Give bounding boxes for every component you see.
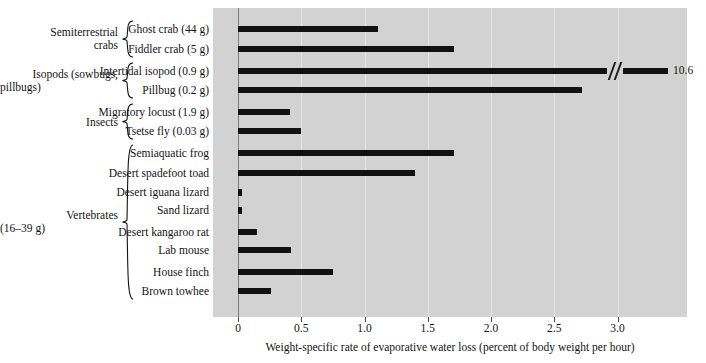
group-label-3: Vertebrates(16–39 g) xyxy=(0,209,118,235)
plot-area: 10.6 xyxy=(213,8,687,317)
chart-figure: 10.6 Ghost crab (44 g)Fiddler crab (5 g)… xyxy=(0,0,706,363)
category-labels: Ghost crab (44 g)Fiddler crab (5 g)Inter… xyxy=(0,0,209,363)
group-label-line1: Vertebrates xyxy=(0,209,118,222)
bar-13 xyxy=(238,288,271,294)
x-axis-ticks: 00.51.01.52.02.53.0 xyxy=(213,317,687,325)
group-brace-3 xyxy=(122,144,134,300)
tick-label-4: 2.0 xyxy=(484,322,498,334)
group-brace-2 xyxy=(122,103,134,140)
group-brace-1 xyxy=(122,62,134,99)
bar-8 xyxy=(238,189,242,196)
group-brace-0 xyxy=(122,20,134,58)
tick-label-2: 1.0 xyxy=(357,322,371,334)
group-label-line2: (16–39 g) xyxy=(0,222,118,235)
tick-label-5: 2.5 xyxy=(547,322,561,334)
x-axis-title: Weight-specific rate of evaporative wate… xyxy=(213,341,687,353)
gridline-2-5 xyxy=(554,8,555,317)
bar-6 xyxy=(238,150,454,156)
category-label-6: Semiaquatic frog xyxy=(130,147,209,159)
gridline-2 xyxy=(491,8,492,317)
tick-label-0: 0 xyxy=(235,322,241,334)
gridline-3 xyxy=(618,8,619,317)
category-label-1: Fiddler crab (5 g) xyxy=(128,43,209,55)
gridline-1-5 xyxy=(428,8,429,317)
category-label-12: House finch xyxy=(153,266,209,278)
group-label-line2: crabs xyxy=(0,39,118,52)
gridline-1 xyxy=(365,8,366,317)
category-label-5: Tsetse fly (0.03 g) xyxy=(125,125,209,137)
tick-label-1: 0.5 xyxy=(294,322,308,334)
category-label-11: Lab mouse xyxy=(158,244,209,256)
bar-5 xyxy=(238,128,301,134)
category-label-13: Brown towhee xyxy=(142,285,209,297)
tick-label-6: 3.0 xyxy=(610,322,624,334)
bar-9 xyxy=(238,207,242,214)
bar-12 xyxy=(238,269,333,275)
category-label-0: Ghost crab (44 g) xyxy=(128,23,209,35)
category-label-9: Sand lizard xyxy=(157,204,209,216)
group-label-1: Isopods (sowbugs,pillbugs) xyxy=(0,68,118,94)
bar-value-label: 10.6 xyxy=(673,64,693,76)
category-label-3: Pillbug (0.2 g) xyxy=(142,84,209,96)
tick-label-3: 1.5 xyxy=(421,322,435,334)
bar-0 xyxy=(238,26,378,32)
group-label-line2: pillbugs) xyxy=(0,81,118,94)
group-label-line1: Semiterrestrial xyxy=(0,26,118,39)
bar-4 xyxy=(238,109,290,115)
group-label-2: Insects xyxy=(0,116,118,129)
bar-1 xyxy=(238,46,454,52)
bar-2 xyxy=(238,68,668,74)
bar-3 xyxy=(238,87,582,93)
bar-10 xyxy=(238,229,257,235)
bar-11 xyxy=(238,247,291,253)
axis-break-icon xyxy=(607,62,623,80)
group-label-line1: Insects xyxy=(0,116,118,129)
group-label-0: Semiterrestrialcrabs xyxy=(0,26,118,52)
group-label-line1: Isopods (sowbugs, xyxy=(0,68,118,81)
bar-7 xyxy=(238,170,415,176)
